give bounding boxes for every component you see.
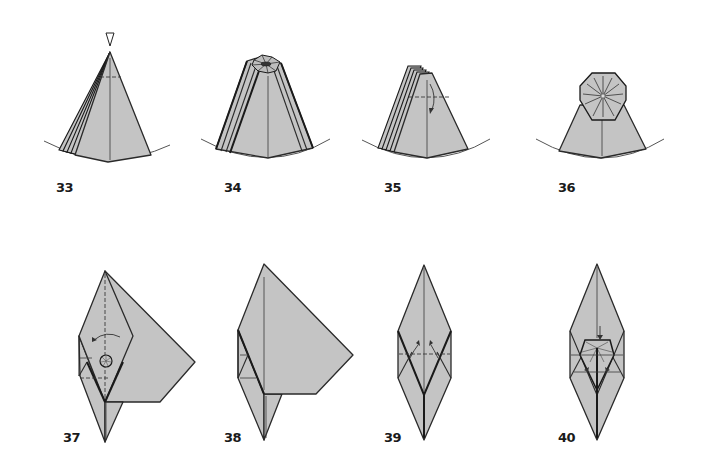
step-37-diagram xyxy=(79,271,195,442)
step-number: 33 xyxy=(56,180,73,195)
step-number: 34 xyxy=(224,180,241,195)
step-40-diagram xyxy=(570,264,624,440)
step-number: 39 xyxy=(384,430,401,445)
step-33-diagram xyxy=(44,33,170,162)
diagram-canvas xyxy=(0,0,706,476)
step-number: 40 xyxy=(558,430,575,445)
step-number: 36 xyxy=(558,180,575,195)
step-34-diagram xyxy=(201,55,330,158)
push-arrow-icon xyxy=(106,33,114,46)
step-number: 35 xyxy=(384,180,401,195)
step-39-diagram xyxy=(398,265,451,440)
step-38-diagram xyxy=(238,264,353,440)
step-35-diagram xyxy=(362,66,490,158)
step-38-lower-right xyxy=(264,394,282,440)
step-36-diagram xyxy=(536,73,664,158)
step-number: 37 xyxy=(63,430,80,445)
step-number: 38 xyxy=(224,430,241,445)
step-37-lower-right xyxy=(105,402,123,442)
